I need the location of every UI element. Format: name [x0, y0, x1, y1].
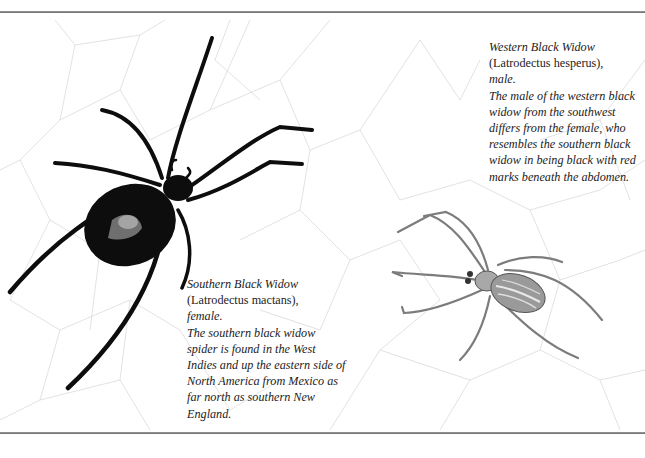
caption-body-line: marks beneath the abdomen.: [489, 169, 636, 185]
caption-body-line: England.: [187, 406, 345, 422]
southern-black-widow-caption: Southern Black Widow (Latrodectus mactan…: [187, 276, 345, 422]
caption-sex: female.: [187, 308, 345, 324]
caption-body-line: widow in being black with red: [489, 152, 636, 168]
caption-body-line: The male of the western black: [489, 88, 636, 104]
caption-body-line: widow from the southwest: [489, 104, 636, 120]
caption-body-line: resembles the southern black: [489, 136, 636, 152]
caption-body-line: Indies and up the eastern side of: [187, 357, 345, 373]
caption-body-line: The southern black widow: [187, 325, 345, 341]
caption-body-line: far north as southern New: [187, 389, 345, 405]
book-page: Western Black Widow (Latrodectus hesperu…: [0, 0, 645, 458]
caption-common-name: Southern Black Widow: [187, 276, 345, 292]
caption-body-line: North America from Mexico as: [187, 373, 345, 389]
western-black-widow-caption: Western Black Widow (Latrodectus hesperu…: [489, 39, 636, 185]
caption-body-line: spider is found in the West: [187, 341, 345, 357]
caption-sex: male.: [489, 71, 636, 87]
caption-common-name: Western Black Widow: [489, 39, 636, 55]
caption-body-line: differs from the female, who: [489, 120, 636, 136]
southern-black-widow-body: [70, 169, 193, 281]
caption-latin-name: (Latrodectus mactans),: [187, 292, 345, 308]
caption-latin-name: (Latrodectus hesperus),: [489, 55, 636, 71]
